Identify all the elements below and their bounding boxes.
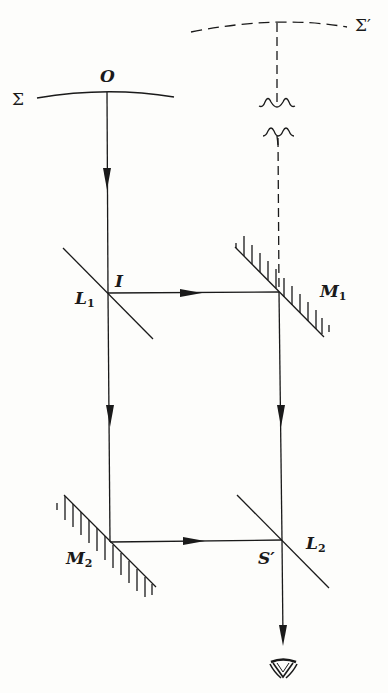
label-incidence: I (115, 273, 123, 290)
arrow-right-upper (180, 289, 202, 297)
virtual-path-lower (278, 138, 279, 290)
label-m1: M1 (320, 283, 346, 302)
mirror-m1 (235, 236, 329, 337)
arrow-right-lower (183, 537, 205, 545)
wavefront-sigma-prime (191, 22, 347, 32)
wavefront-sigma (37, 92, 174, 98)
label-m2: M2 (66, 550, 92, 569)
label-l1: L1 (75, 290, 95, 309)
break-stem (277, 136, 278, 145)
mirror-m2 (57, 495, 156, 597)
label-origin: O (100, 68, 115, 85)
label-sigma-prime: Σ′ (355, 17, 371, 34)
arrow-down-output (279, 625, 287, 646)
arrow-down-left (106, 405, 114, 427)
arrow-down-right (277, 405, 285, 427)
label-l2: L2 (306, 535, 326, 554)
break-symbol-lower (263, 128, 294, 136)
arrow-down-incoming (103, 168, 111, 190)
beam-incoming (107, 92, 108, 293)
label-image-point: S′ (258, 550, 275, 567)
interferometer-diagram (0, 0, 388, 693)
eye-icon (270, 660, 297, 679)
label-sigma: Σ (12, 91, 24, 108)
